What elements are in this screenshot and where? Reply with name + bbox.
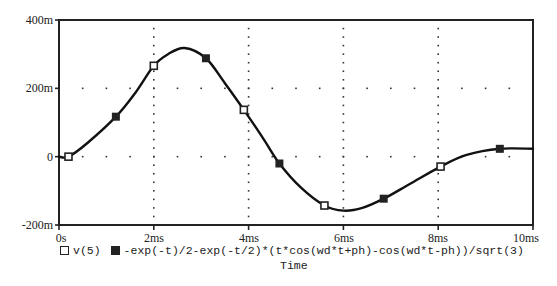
x-axis-title: Time — [280, 259, 308, 272]
legend-series-2: -exp(-t)/2-exp(-t/2)*(t*cos(wd*t+ph)-cos… — [124, 244, 524, 257]
open-square-marker-icon — [437, 163, 444, 170]
y-tick-label: -200m — [22, 218, 54, 232]
x-tick-label: 6ms — [334, 231, 354, 245]
plot-frame — [59, 20, 533, 225]
filled-square-marker-icon — [202, 54, 210, 62]
open-square-marker-icon — [60, 246, 69, 255]
y-tick-label: 0 — [47, 150, 53, 164]
x-tick-label: 4ms — [239, 231, 259, 245]
filled-square-marker-icon — [275, 160, 283, 168]
x-tick-label: 2ms — [144, 231, 164, 245]
x-tick-label: 8ms — [428, 231, 448, 245]
legend: v(5)-exp(-t)/2-exp(-t/2)*(t*cos(wd*t+ph)… — [60, 244, 524, 257]
filled-square-marker-icon — [380, 195, 388, 203]
filled-square-marker-icon — [112, 113, 120, 121]
legend-series-1: v(5) — [73, 244, 101, 257]
y-tick-label: 200m — [26, 81, 54, 95]
x-axis-labels: 0s 2ms 4ms 6ms 8ms 10ms — [56, 231, 540, 245]
y-tick-label: 400m — [26, 13, 54, 27]
waveform-curve — [59, 48, 533, 211]
y-axis-labels: 400m 200m 0 -200m — [22, 13, 54, 232]
open-square-marker-icon — [150, 62, 157, 69]
open-square-marker-icon — [65, 153, 72, 160]
open-square-marker-icon — [321, 202, 328, 209]
axis-ticks — [55, 20, 533, 230]
grid-dots — [82, 28, 510, 218]
open-square-marker-icon — [240, 106, 247, 113]
x-tick-label: 10ms — [513, 231, 539, 245]
filled-square-marker-icon — [111, 246, 120, 255]
filled-square-marker-icon — [496, 145, 504, 153]
x-tick-label: 0s — [56, 231, 67, 245]
